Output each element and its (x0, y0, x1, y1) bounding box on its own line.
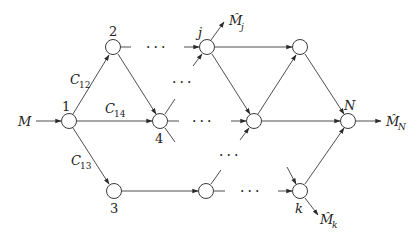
node-label-N: N (343, 98, 356, 113)
node-3 (107, 184, 122, 199)
capacity-label-c14: C 14 (105, 101, 126, 119)
ellipsis-lower-mid: ··· (219, 147, 241, 163)
edge-j-to-output (211, 22, 224, 40)
edge-m2-to-t2 (258, 55, 296, 114)
node-label-1: 1 (62, 99, 70, 114)
capacity-label-c13: C 13 (71, 153, 92, 171)
svg-text:13: 13 (80, 161, 92, 171)
svg-text:N: N (397, 122, 407, 132)
flow-network-diagram: ··· ··· ··· ··· ··· M 1 2 3 4 j N k C 12… (0, 0, 419, 240)
edge-k-to-output (305, 198, 318, 215)
edge-4-stub-down (165, 128, 175, 142)
node-label-k: k (295, 201, 303, 216)
node-label-3: 3 (110, 201, 118, 216)
node-top-right (293, 40, 308, 55)
edge-j-in-lowerleft (193, 54, 202, 66)
output-label-MN: M̂ N (385, 114, 407, 132)
node-N (341, 114, 356, 129)
ellipsis-top: ··· (146, 39, 168, 55)
edge-2-to-4 (118, 54, 156, 114)
svg-text:12: 12 (79, 80, 90, 90)
svg-text:14: 14 (114, 109, 126, 119)
edge-b1-stub-up (211, 170, 221, 184)
node-middle-right (247, 114, 262, 129)
node-2 (106, 40, 121, 55)
edge-k-to-N (305, 128, 344, 184)
svg-text:k: k (332, 220, 337, 230)
edge-j-to-m2 (212, 54, 250, 114)
node-label-2: 2 (109, 24, 117, 39)
ellipsis-upper-mid: ··· (172, 74, 194, 90)
node-k (293, 184, 308, 199)
edge-t2-to-N (305, 54, 344, 114)
node-4 (153, 114, 168, 129)
node-label-4: 4 (155, 131, 163, 146)
edge-k-in-upperleft (287, 167, 296, 184)
node-label-j: j (195, 25, 202, 40)
node-bottom-mid (199, 184, 214, 199)
output-label-Mj: M̂ j (228, 13, 244, 32)
node-1 (62, 114, 77, 129)
node-j (200, 40, 215, 55)
ellipsis-middle: ··· (192, 113, 214, 129)
edge-4-stub-up (165, 99, 175, 114)
output-label-Mk: M̂ k (319, 212, 337, 230)
capacity-label-c12: C 12 (70, 72, 90, 90)
input-label-M: M (17, 114, 32, 129)
ellipsis-bottom: ··· (240, 183, 262, 199)
edge-m2-in-lowerleft (240, 128, 249, 140)
